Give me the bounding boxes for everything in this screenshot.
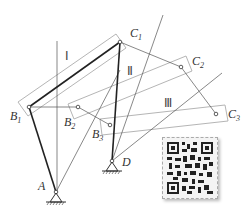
linkage-links [29, 42, 120, 192]
joint-B3 [108, 123, 112, 127]
joint-C2 [179, 65, 183, 69]
label-position-1: Ⅰ [65, 49, 69, 63]
coupler-rectangles [18, 34, 228, 135]
joint-B2 [76, 105, 80, 109]
label-C3: C3 [228, 107, 240, 123]
link-D-C1 [112, 42, 120, 161]
line-A-perpendicular [56, 70, 120, 192]
line-B2-B3 [78, 107, 110, 125]
linkage-diagram: C1 C2 C3 B1 B2 B3 A D Ⅰ Ⅱ Ⅲ [0, 0, 249, 214]
ground-support-A [46, 193, 66, 205]
line-C2-C3 [181, 67, 216, 114]
label-C2: C2 [192, 54, 204, 70]
ground-support-D [102, 162, 122, 174]
joint-B1 [27, 105, 31, 109]
label-B1: B1 [10, 109, 21, 125]
label-C1: C1 [130, 26, 142, 42]
label-position-2: Ⅱ [127, 64, 133, 78]
label-D: D [121, 155, 131, 169]
label-position-3: Ⅲ [164, 96, 172, 110]
label-A: A [37, 179, 46, 193]
joint-C3 [214, 112, 218, 116]
qr-code-image [162, 137, 218, 199]
qr-code-icon [163, 138, 217, 198]
joint-C1 [118, 40, 122, 44]
link-B1-C1 [29, 42, 120, 107]
